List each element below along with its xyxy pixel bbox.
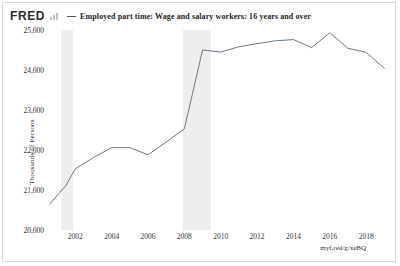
x-axis-tick-label: 2018 bbox=[359, 232, 374, 241]
x-axis-tick-label: 2010 bbox=[213, 232, 228, 241]
x-axis-tick-label: 2014 bbox=[286, 232, 301, 241]
x-axis-tick-label: 2008 bbox=[177, 232, 192, 241]
x-axis-tick-label: 2012 bbox=[250, 232, 265, 241]
series-canvas bbox=[48, 30, 388, 230]
x-axis-tick-label: 2006 bbox=[141, 232, 156, 241]
x-axis-tick-label: 2004 bbox=[104, 232, 119, 241]
plot-area bbox=[48, 30, 388, 230]
x-axis-tick-label: 2016 bbox=[322, 232, 337, 241]
fred-chart-graphic: FRED Employed part time: Wage and salary… bbox=[0, 0, 400, 266]
plot-wrapper bbox=[0, 0, 400, 266]
source-short-url: myf.red/g/xeBQ bbox=[320, 244, 366, 252]
series-line bbox=[50, 33, 385, 204]
x-axis-tick-label: 2002 bbox=[68, 232, 83, 241]
